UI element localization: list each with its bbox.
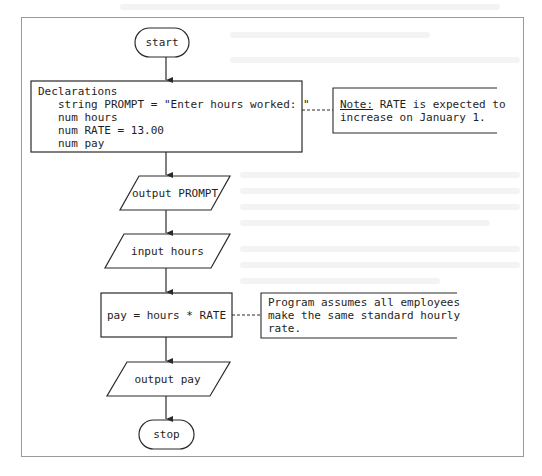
- output-pay-label: output pay: [110, 373, 225, 386]
- declaration-line: num RATE = 13.00: [58, 124, 164, 137]
- note-rate-line1: Note: RATE is expected to: [340, 98, 506, 111]
- declaration-line: num pay: [58, 137, 104, 150]
- note-rate-line2: increase on January 1.: [340, 111, 486, 124]
- note-assumption-line: rate.: [268, 322, 301, 335]
- declaration-line: string PROMPT = "Enter hours worked: ": [58, 98, 310, 111]
- note-assumption-line: Program assumes all employees: [268, 296, 460, 309]
- start-label: start: [135, 36, 189, 49]
- input-hours-label: input hours: [110, 245, 225, 258]
- note-label: Note:: [340, 98, 373, 111]
- flowchart-shapes: [0, 0, 542, 476]
- pay-process-label: pay = hours * RATE: [101, 309, 232, 322]
- note-rate-text: RATE is expected to: [373, 98, 505, 111]
- output-prompt-label: output PROMPT: [120, 187, 230, 200]
- stop-label: stop: [139, 428, 194, 441]
- note-assumption-line: make the same standard hourly: [268, 309, 460, 322]
- declaration-line: num hours: [58, 111, 118, 124]
- declarations-title: Declarations: [38, 85, 117, 98]
